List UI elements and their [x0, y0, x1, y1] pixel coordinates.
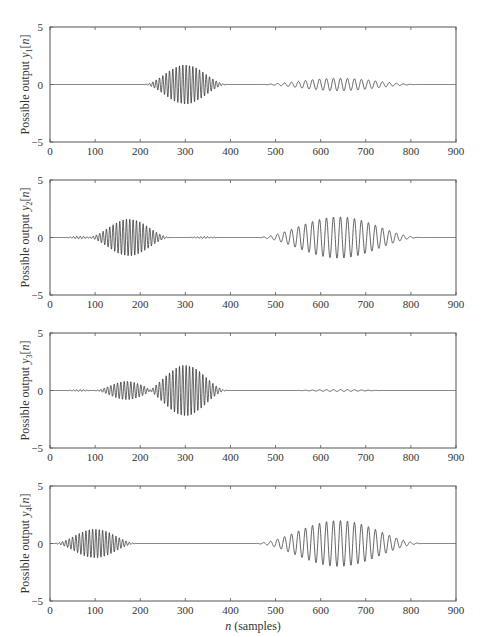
x-tick-label: 0: [47, 451, 53, 463]
chart-panel-3: 010020030040050060070080090050−5Possible…: [18, 327, 465, 463]
y-axis-label: Possible output y1[n]: [18, 34, 34, 134]
figure: 010020030040050060070080090050−5Possible…: [0, 0, 482, 637]
x-tick-label: 200: [132, 298, 149, 310]
signal-line: [50, 65, 456, 104]
x-tick-label: 700: [358, 145, 375, 157]
x-tick-label: 0: [47, 604, 53, 616]
x-tick-label: 300: [177, 451, 194, 463]
x-axis-label: n (samples): [225, 619, 281, 633]
x-tick-label: 800: [403, 451, 420, 463]
chart-panel-4: 010020030040050060070080090050−5Possible…: [18, 480, 465, 616]
x-tick-label: 500: [267, 604, 284, 616]
y-tick-label: 5: [38, 327, 44, 339]
x-tick-label: 100: [87, 451, 104, 463]
x-tick-label: 500: [267, 298, 284, 310]
x-tick-label: 500: [267, 451, 284, 463]
x-tick-label: 400: [222, 604, 239, 616]
signal-line: [50, 521, 456, 567]
x-tick-label: 100: [87, 604, 104, 616]
x-tick-label: 500: [267, 145, 284, 157]
y-axis-label: Possible output y3[n]: [18, 340, 34, 440]
y-tick-label: 0: [38, 232, 44, 244]
x-tick-label: 600: [312, 298, 329, 310]
x-tick-label: 600: [312, 145, 329, 157]
x-tick-label: 300: [177, 298, 194, 310]
y-tick-label: −5: [31, 136, 43, 148]
chart-panel-1: 010020030040050060070080090050−5Possible…: [18, 21, 465, 157]
x-tick-label: 800: [403, 145, 420, 157]
x-tick-label: 100: [87, 145, 104, 157]
y-tick-label: 0: [38, 79, 44, 91]
y-tick-label: −5: [31, 595, 43, 607]
y-axis-label: Possible output y4[n]: [18, 493, 34, 593]
x-tick-label: 400: [222, 298, 239, 310]
x-tick-label: 200: [132, 604, 149, 616]
x-tick-label: 400: [222, 145, 239, 157]
x-tick-label: 700: [358, 604, 375, 616]
y-tick-label: −5: [31, 442, 43, 454]
x-tick-label: 300: [177, 145, 194, 157]
x-tick-label: 700: [358, 451, 375, 463]
x-tick-label: 400: [222, 451, 239, 463]
signal-line: [50, 365, 456, 415]
y-tick-label: 5: [38, 174, 44, 186]
y-tick-label: 0: [38, 385, 44, 397]
x-tick-label: 300: [177, 604, 194, 616]
x-tick-label: 900: [448, 604, 465, 616]
x-tick-label: 200: [132, 451, 149, 463]
x-tick-label: 900: [448, 298, 465, 310]
x-tick-label: 700: [358, 298, 375, 310]
x-tick-label: 0: [47, 298, 53, 310]
x-tick-label: 100: [87, 298, 104, 310]
x-tick-label: 800: [403, 604, 420, 616]
x-tick-label: 200: [132, 145, 149, 157]
y-tick-label: −5: [31, 289, 43, 301]
y-axis-label: Possible output y2[n]: [18, 187, 34, 287]
signal-line: [50, 217, 456, 258]
x-tick-label: 900: [448, 145, 465, 157]
x-tick-label: 600: [312, 451, 329, 463]
x-tick-label: 600: [312, 604, 329, 616]
y-tick-label: 5: [38, 480, 44, 492]
x-tick-label: 800: [403, 298, 420, 310]
chart-panel-2: 010020030040050060070080090050−5Possible…: [18, 174, 465, 310]
x-tick-label: 0: [47, 145, 53, 157]
y-tick-label: 5: [38, 21, 44, 33]
y-tick-label: 0: [38, 538, 44, 550]
x-tick-label: 900: [448, 451, 465, 463]
